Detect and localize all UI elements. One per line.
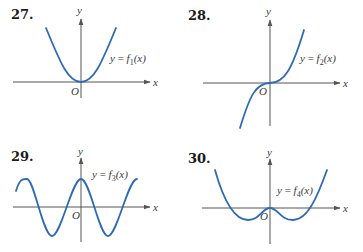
y-axis-label: y [266,146,272,158]
function-label: y = f3(x) [91,168,128,183]
origin-label: O [71,85,79,97]
problem-number: 27. [11,7,34,22]
problem-number: 30. [188,151,211,166]
curve-f2 [240,30,304,128]
function-graphs-figure: 27. x y O y = f1(x) 28. x y O y = f2(x) … [0,0,363,252]
x-axis-label: x [342,202,348,214]
origin-label: O [72,209,80,221]
function-label: y = f2(x) [299,52,336,67]
y-axis-label: y [77,145,83,157]
graph-29: 29. x y O y = f3(x) [11,145,158,242]
x-axis-label: x [152,76,158,88]
problem-number: 28. [188,8,211,23]
x-axis-label: x [342,77,348,89]
graph-28: 28. x y O y = f2(x) [188,5,348,128]
graph-27: 27. x y O y = f1(x) [11,4,158,98]
y-axis-label: y [265,5,271,17]
x-axis-label: x [152,201,158,213]
graph-30: 30. x y O y = f4(x) [188,146,348,244]
function-label: y = f1(x) [109,52,146,67]
y-axis-label: y [76,4,82,16]
problem-number: 29. [11,149,34,164]
function-label: y = f4(x) [276,184,313,199]
